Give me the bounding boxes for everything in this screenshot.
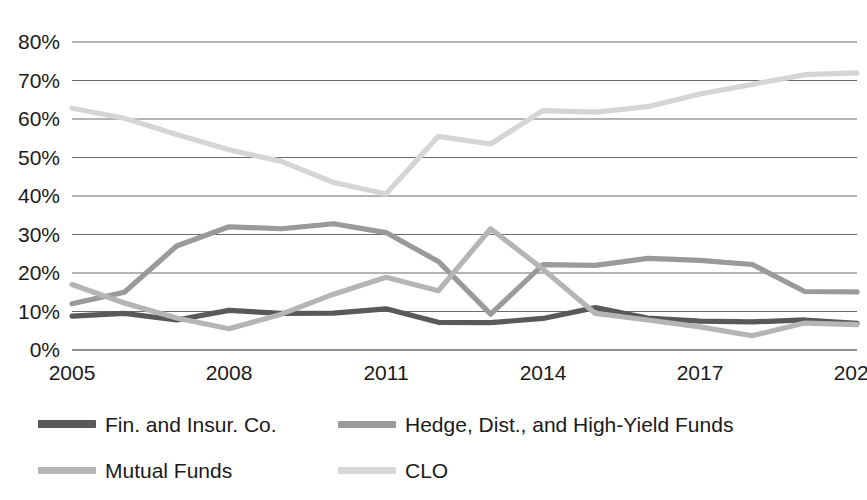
legend-swatch-mutual-funds xyxy=(38,467,96,474)
chart-legend: Fin. and Insur. Co. Hedge, Dist., and Hi… xyxy=(38,404,858,496)
legend-label-clo: CLO xyxy=(405,460,448,481)
legend-item-hedge-dist-and-high-yield-funds[interactable]: Hedge, Dist., and High-Yield Funds xyxy=(338,404,733,444)
x-axis-tick-label-2008: 2008 xyxy=(184,362,274,383)
x-axis-tick-label-2011: 2011 xyxy=(341,362,431,383)
legend-swatch-clo xyxy=(338,467,396,474)
legend-label-hedge-dist-and-high-yield-funds: Hedge, Dist., and High-Yield Funds xyxy=(405,414,733,435)
legend-item-mutual-funds[interactable]: Mutual Funds xyxy=(38,450,338,490)
legend-label-mutual-funds: Mutual Funds xyxy=(105,460,232,481)
legend-swatch-hedge-dist-and-high-yield-funds xyxy=(338,421,396,428)
legend-label-fin-and-insur-co: Fin. and Insur. Co. xyxy=(105,414,277,435)
legend-item-fin-and-insur-co[interactable]: Fin. and Insur. Co. xyxy=(38,404,338,444)
legend-item-clo[interactable]: CLO xyxy=(338,450,448,490)
x-axis-tick-label-2005: 2005 xyxy=(27,362,117,383)
x-axis-tick-label-2014: 2014 xyxy=(498,362,588,383)
x-axis-tick-label-2020: 2020 xyxy=(812,362,867,383)
x-axis-tick-label-2017: 2017 xyxy=(655,362,745,383)
chart-container: 0%10%20%30%40%50%60%70%80% 2005200820112… xyxy=(0,0,867,500)
legend-row-2: Mutual Funds CLO xyxy=(38,450,858,490)
legend-swatch-fin-and-insur-co xyxy=(38,420,96,428)
legend-row-1: Fin. and Insur. Co. Hedge, Dist., and Hi… xyxy=(38,404,858,444)
